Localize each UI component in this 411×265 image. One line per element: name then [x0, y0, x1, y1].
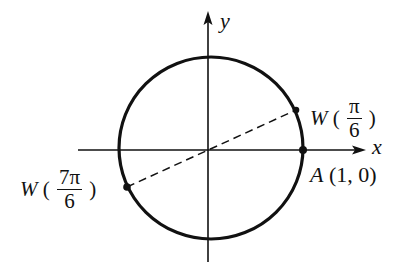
fraction-denominator: 6 — [64, 190, 75, 212]
fraction-denominator: 6 — [349, 119, 360, 141]
point-w-pi-over-6 — [293, 107, 300, 114]
fraction: π 6 — [347, 96, 362, 141]
fraction: 7π 6 — [57, 167, 82, 212]
dashed-diameter — [127, 110, 296, 187]
open-paren: ( — [333, 108, 340, 129]
function-name: W — [20, 179, 38, 200]
point-a-coords: (1, 0) — [329, 162, 377, 187]
label-w-7pi-over-6: W ( 7π 6 ) — [20, 167, 96, 212]
y-axis-label: y — [220, 10, 230, 32]
function-name: W — [310, 108, 328, 129]
point-a-name: A — [310, 162, 323, 187]
point-w-7pi-over-6 — [123, 183, 131, 191]
open-paren: ( — [43, 179, 50, 200]
label-point-a: A (1, 0) — [310, 164, 377, 186]
point-a — [299, 146, 307, 154]
label-w-pi-over-6: W ( π 6 ) — [310, 96, 376, 141]
fraction-numerator: 7π — [57, 167, 82, 190]
close-paren: ) — [369, 108, 376, 129]
close-paren: ) — [89, 179, 96, 200]
fraction-numerator: π — [347, 96, 362, 119]
